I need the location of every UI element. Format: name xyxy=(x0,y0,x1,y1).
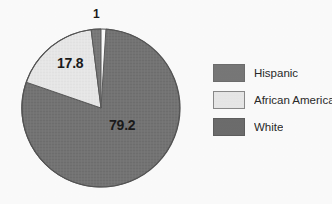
legend-label-hispanic: Hispanic xyxy=(254,64,298,82)
legend-swatch-african-american xyxy=(213,91,245,109)
pie-label-hispanic: 1 xyxy=(93,7,99,21)
legend-item-hispanic: Hispanic xyxy=(213,64,332,82)
pie-label-white: 79.2 xyxy=(109,117,135,133)
pie-chart-figure: 1 17.8 79.2 Hispanic African America Whi… xyxy=(0,0,332,204)
pie-chart-area: 1 17.8 79.2 xyxy=(0,0,200,204)
legend-label-white: White xyxy=(254,118,283,136)
legend: Hispanic African America White xyxy=(213,64,332,136)
pie-label-african-american: 17.8 xyxy=(57,55,83,71)
legend-item-african-american: African America xyxy=(213,91,332,109)
legend-swatch-white xyxy=(213,118,245,136)
legend-item-white: White xyxy=(213,118,332,136)
pie-chart-svg xyxy=(0,0,200,204)
legend-swatch-hispanic xyxy=(213,64,245,82)
legend-label-african-american: African America xyxy=(254,91,332,109)
